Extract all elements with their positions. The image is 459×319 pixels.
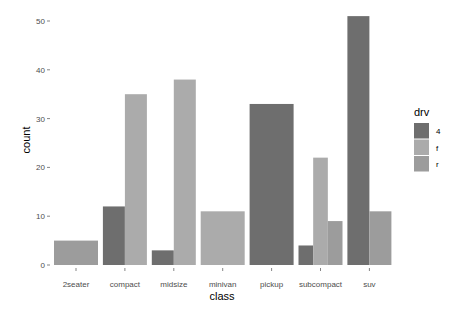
x-axis: 2seatercompactmidsizeminivanpickupsubcom…: [63, 268, 376, 289]
legend-key-f: [414, 140, 429, 156]
bar-midsize-f: [174, 80, 196, 265]
bar-minivan-f: [201, 211, 245, 265]
legend-title: drv: [414, 106, 430, 118]
bar-pickup-4: [250, 104, 294, 265]
bar-compact-f: [125, 94, 147, 265]
plot-bars: [54, 16, 391, 265]
x-tick-label: suv: [363, 280, 375, 289]
x-axis-title: class: [209, 290, 235, 302]
bar-compact-4: [103, 206, 125, 265]
y-tick-label: 30: [36, 115, 45, 124]
x-tick-label: 2seater: [63, 280, 90, 289]
legend-key-4: [414, 123, 429, 139]
legend-label: 4: [436, 127, 441, 136]
y-tick-label: 0: [41, 261, 46, 270]
x-tick-label: subcompact: [299, 280, 343, 289]
y-axis: 01020304050: [36, 17, 50, 270]
y-tick-label: 50: [36, 17, 45, 26]
y-tick-label: 40: [36, 66, 45, 75]
bar-2seater-r: [54, 241, 98, 265]
bar-subcompact-f: [313, 158, 328, 265]
bar-suv-r: [369, 211, 391, 265]
x-tick-label: compact: [110, 280, 141, 289]
bar-subcompact-4: [299, 245, 314, 265]
legend-label: r: [436, 160, 439, 169]
y-tick-label: 20: [36, 163, 45, 172]
x-tick-label: pickup: [260, 280, 284, 289]
y-tick-label: 10: [36, 212, 45, 221]
x-tick-label: minivan: [209, 280, 237, 289]
bar-chart: 01020304050 2seatercompactmidsizeminivan…: [0, 0, 459, 319]
legend-label: f: [436, 144, 439, 153]
bar-suv-4: [347, 16, 369, 265]
bar-midsize-4: [152, 250, 174, 265]
y-axis-title: count: [20, 127, 32, 154]
legend-key-r: [414, 156, 429, 172]
legend: drv 4fr: [414, 106, 441, 172]
bar-subcompact-r: [328, 221, 343, 265]
x-tick-label: midsize: [160, 280, 188, 289]
